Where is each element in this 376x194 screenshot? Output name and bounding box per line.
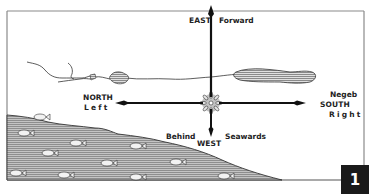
label-forward: Forward <box>219 17 254 25</box>
west-arrowhead-icon <box>209 126 214 137</box>
label-east: EAST <box>189 17 211 25</box>
label-right: Right <box>329 111 363 119</box>
lakes <box>90 69 316 84</box>
fish-icon <box>34 114 50 120</box>
label-negeb: Negeb <box>330 91 357 99</box>
figure-number-badge: 1 <box>341 165 369 194</box>
south-arrowhead-icon <box>292 101 306 106</box>
label-south: SOUTH <box>320 101 350 109</box>
label-north: NORTH <box>83 94 113 102</box>
figure-number: 1 <box>350 171 360 189</box>
label-behind: Behind <box>166 133 195 141</box>
orientation-map-figure: EAST Forward NORTH Left Negeb SOUTH Righ… <box>0 0 376 194</box>
map-illustration <box>0 0 376 194</box>
label-seawards: Seawards <box>225 133 266 141</box>
rivers <box>27 62 246 82</box>
label-west: WEST <box>197 140 221 148</box>
north-arrowhead-icon <box>115 101 130 106</box>
label-left: Left <box>84 104 110 112</box>
